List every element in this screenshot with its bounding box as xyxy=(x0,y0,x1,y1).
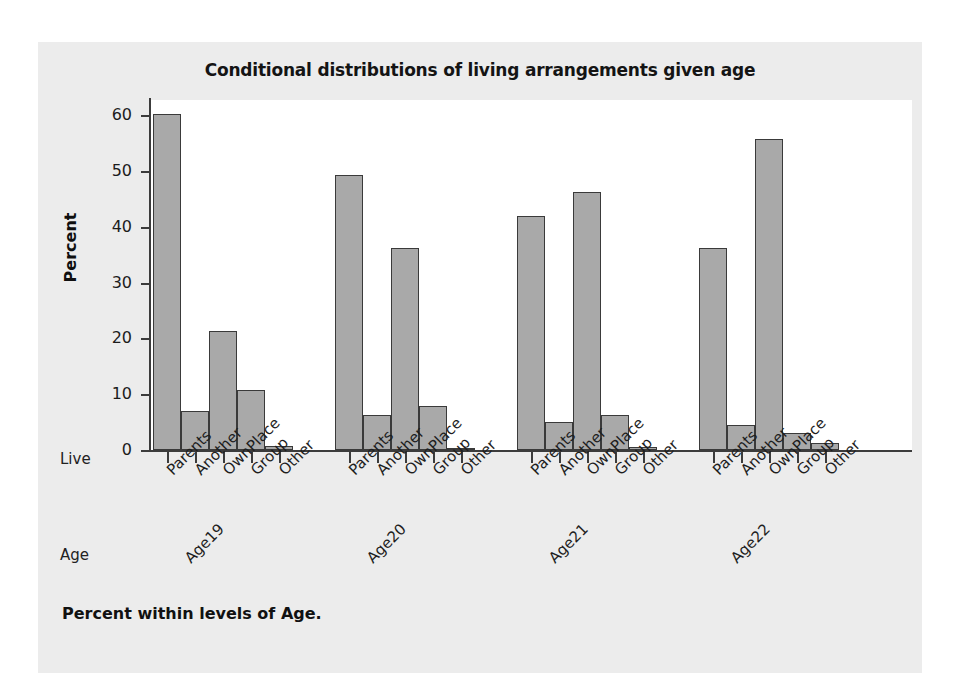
group-label: Age20 xyxy=(363,520,410,567)
bar xyxy=(699,248,727,450)
bar xyxy=(391,248,419,450)
screenshot-root: Conditional distributions of living arra… xyxy=(0,0,956,673)
group-label: Age21 xyxy=(545,520,592,567)
y-axis-tick xyxy=(141,450,150,452)
bar xyxy=(755,139,783,450)
y-axis-line xyxy=(149,98,151,452)
row-label-live: Live xyxy=(60,450,91,468)
y-axis-tick xyxy=(141,283,150,285)
y-axis-tick xyxy=(141,394,150,396)
figure-panel: Conditional distributions of living arra… xyxy=(38,42,922,673)
group-label: Age22 xyxy=(727,520,774,567)
y-axis-title: Percent xyxy=(61,198,80,298)
bar xyxy=(335,175,363,450)
bar xyxy=(153,114,181,450)
row-label-age: Age xyxy=(60,546,89,564)
y-axis-tick xyxy=(141,227,150,229)
group-label: Age19 xyxy=(181,520,228,567)
y-axis-tick-label: 60 xyxy=(92,105,132,124)
chart-title: Conditional distributions of living arra… xyxy=(38,60,922,80)
y-axis-tick-label: 20 xyxy=(92,328,132,347)
y-axis-tick-label: 0 xyxy=(92,440,132,459)
bar xyxy=(573,192,601,450)
y-axis-tick xyxy=(141,171,150,173)
bar xyxy=(517,216,545,451)
y-axis-tick xyxy=(141,115,150,117)
y-axis-tick-label: 10 xyxy=(92,384,132,403)
y-axis-tick-label: 40 xyxy=(92,217,132,236)
footer-note: Percent within levels of Age. xyxy=(62,604,322,623)
y-axis-tick-label: 50 xyxy=(92,161,132,180)
y-axis-tick xyxy=(141,338,150,340)
y-axis-tick-label: 30 xyxy=(92,273,132,292)
